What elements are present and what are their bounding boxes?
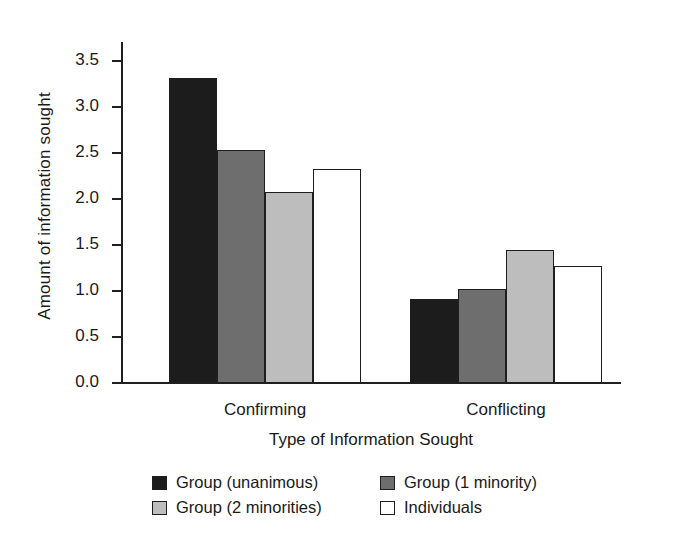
chart-legend: Group (unanimous)Group (1 minority)Group… [152,470,572,520]
bar [554,266,602,383]
y-axis-line [121,42,123,383]
legend-label: Group (1 minority) [404,473,537,492]
legend-swatch [152,501,167,515]
bar-chart-figure: Amount of information sought 0.00.51.01.… [0,0,677,538]
bar [265,192,313,383]
legend-label: Group (unanimous) [176,473,318,492]
x-category-label: Confirming [224,400,306,420]
y-tick: 3.0 [112,106,121,108]
plot-area: 0.00.51.01.52.02.53.03.5 ConfirmingConfl… [121,42,621,383]
legend-swatch [380,476,395,490]
bar [217,150,265,383]
legend-label: Individuals [404,498,482,517]
legend-item: Group (2 minorities) [152,498,380,517]
bar [313,169,361,383]
y-tick: 2.0 [112,198,121,200]
y-tick-label: 0.5 [75,326,99,346]
y-tick-label: 3.0 [75,96,99,116]
legend-item: Individuals [380,498,590,517]
y-tick: 0.0 [112,382,121,384]
y-tick: 3.5 [112,60,121,62]
legend-label: Group (2 minorities) [176,498,322,517]
legend-item: Group (unanimous) [152,473,380,492]
bar [458,289,506,383]
y-tick: 1.0 [112,290,121,292]
y-tick-label: 1.5 [75,234,99,254]
y-tick-label: 2.0 [75,188,99,208]
y-axis-title: Amount of information sought [35,41,55,371]
y-tick: 0.5 [112,336,121,338]
y-tick-label: 1.0 [75,280,99,300]
y-tick-label: 2.5 [75,142,99,162]
x-category-label: Conflicting [466,400,545,420]
legend-swatch [152,476,167,490]
bar [506,250,554,383]
bar [169,78,217,383]
y-tick: 1.5 [112,244,121,246]
x-axis-title: Type of Information Sought [121,430,621,450]
bar [410,299,458,383]
legend-swatch [380,501,395,515]
y-tick-label: 0.0 [75,372,99,392]
y-tick-label: 3.5 [75,50,99,70]
legend-item: Group (1 minority) [380,473,590,492]
y-tick: 2.5 [112,152,121,154]
